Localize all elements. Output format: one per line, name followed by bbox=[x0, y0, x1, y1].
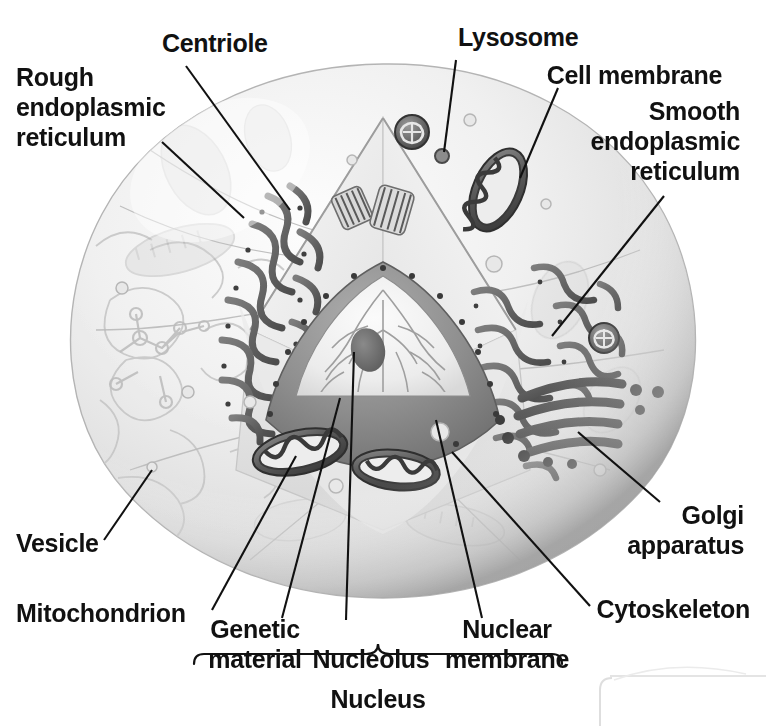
label-vesicle: Vesicle bbox=[16, 528, 99, 558]
label-nucleolus: Nucleolus bbox=[306, 644, 436, 674]
cell-diagram-figure: Centriole Rough endoplasmic reticulum Ly… bbox=[0, 0, 766, 726]
label-smooth-endoplasmic-reticulum: Smooth endoplasmic reticulum bbox=[460, 96, 740, 186]
label-golgi-apparatus: Golgi apparatus bbox=[524, 500, 744, 560]
label-nucleus: Nucleus bbox=[308, 684, 448, 714]
label-rough-endoplasmic-reticulum: Rough endoplasmic reticulum bbox=[16, 62, 166, 152]
label-genetic-material: Genetic material bbox=[190, 614, 320, 674]
label-nuclear-membrane: Nuclear membrane bbox=[432, 614, 582, 674]
label-cell-membrane: Cell membrane bbox=[422, 60, 722, 90]
inset-frame bbox=[600, 667, 766, 726]
label-mitochondrion: Mitochondrion bbox=[16, 598, 186, 628]
label-centriole: Centriole bbox=[162, 28, 268, 58]
label-lysosome: Lysosome bbox=[458, 22, 578, 52]
